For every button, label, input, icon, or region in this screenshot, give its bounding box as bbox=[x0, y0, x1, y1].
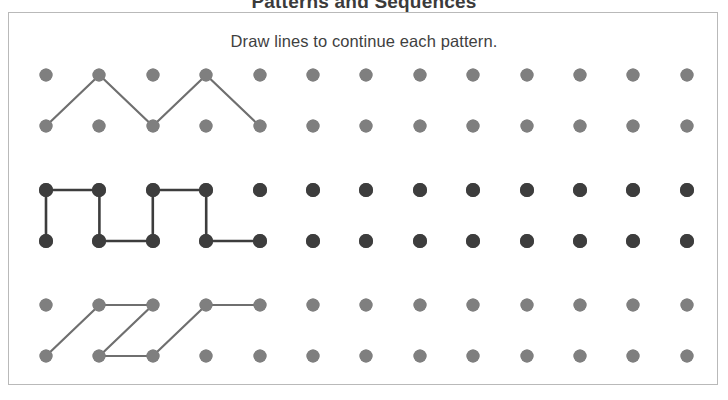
pattern-line-segment bbox=[99, 305, 152, 356]
grid-dot-cap bbox=[253, 350, 266, 363]
grid-dot-cap bbox=[680, 120, 693, 133]
grid-dot-cap bbox=[40, 299, 53, 312]
grid-dot-cap bbox=[680, 299, 693, 312]
grid-dot-cap bbox=[40, 120, 53, 133]
pattern-line-segment bbox=[46, 305, 99, 356]
grid-dot-cap bbox=[680, 69, 693, 82]
grid-dot-cap bbox=[573, 234, 587, 248]
grid-dot-cap bbox=[92, 183, 106, 197]
pattern-line-segment bbox=[46, 75, 99, 126]
grid-dot-cap bbox=[627, 69, 640, 82]
grid-dot-cap bbox=[146, 299, 159, 312]
dot-grid bbox=[9, 13, 719, 386]
grid-dot-cap bbox=[199, 234, 213, 248]
grid-dot-cap bbox=[626, 234, 640, 248]
pattern-line-segment bbox=[153, 75, 206, 126]
grid-dot-cap bbox=[627, 120, 640, 133]
grid-dot-cap bbox=[253, 299, 266, 312]
grid-dot-cap bbox=[467, 120, 480, 133]
grid-dot-cap bbox=[520, 120, 533, 133]
grid-dot-cap bbox=[520, 299, 533, 312]
grid-dot-cap bbox=[40, 350, 53, 363]
grid-dot-cap bbox=[680, 234, 694, 248]
grid-dot-cap bbox=[413, 234, 427, 248]
pattern-line-segment bbox=[206, 75, 259, 126]
grid-dot-cap bbox=[574, 69, 587, 82]
grid-dot-cap bbox=[146, 120, 159, 133]
grid-dot-cap bbox=[39, 183, 53, 197]
grid-dot-cap bbox=[359, 183, 373, 197]
grid-dot-cap bbox=[93, 120, 106, 133]
grid-dot-cap bbox=[307, 120, 320, 133]
grid-dot-cap bbox=[466, 234, 480, 248]
grid-dot-cap bbox=[200, 69, 213, 82]
grid-dot-cap bbox=[200, 120, 213, 133]
grid-dot-cap bbox=[520, 350, 533, 363]
grid-dot-cap bbox=[520, 183, 534, 197]
grid-dot-cap bbox=[39, 234, 53, 248]
grid-dot-cap bbox=[359, 234, 373, 248]
grid-dot-cap bbox=[627, 350, 640, 363]
grid-dot-cap bbox=[306, 234, 320, 248]
grid-dot-cap bbox=[92, 234, 106, 248]
grid-dot-cap bbox=[200, 299, 213, 312]
pattern-zigzag bbox=[46, 75, 260, 126]
grid-dot-cap bbox=[253, 120, 266, 133]
grid-dot-cap bbox=[627, 299, 640, 312]
grid-dot-cap bbox=[307, 69, 320, 82]
grid-dot-cap bbox=[253, 234, 267, 248]
grid-dot-cap bbox=[680, 350, 693, 363]
grid-dot-cap bbox=[680, 183, 694, 197]
grid-dot-cap bbox=[199, 183, 213, 197]
grid-dot-cap bbox=[520, 69, 533, 82]
grid-dot-cap bbox=[360, 69, 373, 82]
grid-dot-cap bbox=[574, 299, 587, 312]
grid-dot-cap bbox=[253, 69, 266, 82]
grid-dot-cap bbox=[520, 234, 534, 248]
grid-dot-cap bbox=[413, 299, 426, 312]
worksheet: Patterns and Sequences Draw lines to con… bbox=[0, 0, 728, 400]
grid-dot-cap bbox=[467, 350, 480, 363]
worksheet-card: Draw lines to continue each pattern. bbox=[8, 12, 718, 385]
grid-dot-cap bbox=[573, 183, 587, 197]
grid-dot-cap bbox=[413, 350, 426, 363]
grid-dot-cap bbox=[360, 350, 373, 363]
pattern-line-segment bbox=[153, 305, 206, 356]
grid-dot-cap bbox=[467, 69, 480, 82]
pattern-z-slant bbox=[46, 305, 260, 356]
grid-dot-cap bbox=[306, 183, 320, 197]
grid-dot-cap bbox=[467, 299, 480, 312]
grid-dot-cap bbox=[40, 69, 53, 82]
grid-dot-cap bbox=[200, 350, 213, 363]
grid-dot-cap bbox=[574, 120, 587, 133]
grid-dot-cap bbox=[146, 234, 160, 248]
grid-dot-cap bbox=[93, 69, 106, 82]
grid-dot-cap bbox=[360, 120, 373, 133]
grid-dot-cap bbox=[413, 120, 426, 133]
grid-dot-cap bbox=[360, 299, 373, 312]
grid-dot-cap bbox=[307, 299, 320, 312]
grid-dot-cap bbox=[626, 183, 640, 197]
grid-dot-cap bbox=[413, 69, 426, 82]
grid-dot-cap bbox=[146, 183, 160, 197]
grid-dot-cap bbox=[93, 299, 106, 312]
pattern-line-segment bbox=[99, 75, 152, 126]
grid-dot-cap bbox=[307, 350, 320, 363]
grid-dot-cap bbox=[146, 350, 159, 363]
grid-dot-cap bbox=[146, 69, 159, 82]
grid-dot-cap bbox=[413, 183, 427, 197]
grid-dot-cap bbox=[93, 350, 106, 363]
grid-dot-cap bbox=[253, 183, 267, 197]
grid-dot-cap bbox=[466, 183, 480, 197]
grid-dot-cap bbox=[574, 350, 587, 363]
